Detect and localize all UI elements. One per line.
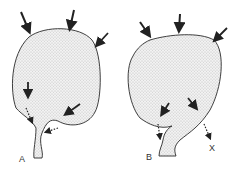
label-x: X <box>209 143 215 153</box>
dotted-arrow-icon <box>204 124 210 138</box>
panel-a <box>12 10 108 158</box>
panel-b <box>128 14 227 156</box>
arrow-icon <box>215 28 227 40</box>
dotted-arrow-icon <box>46 128 58 132</box>
arrow-icon <box>70 10 74 28</box>
arrow-icon <box>179 14 180 30</box>
panel-label-b: B <box>146 152 152 162</box>
arrow-icon <box>21 12 29 31</box>
bladder-shape-a <box>12 29 100 158</box>
diagram <box>0 0 236 169</box>
bladder-shape-b <box>128 35 221 156</box>
arrow-icon <box>140 22 149 35</box>
arrow-icon <box>97 33 108 45</box>
panel-label-a: A <box>19 154 25 164</box>
